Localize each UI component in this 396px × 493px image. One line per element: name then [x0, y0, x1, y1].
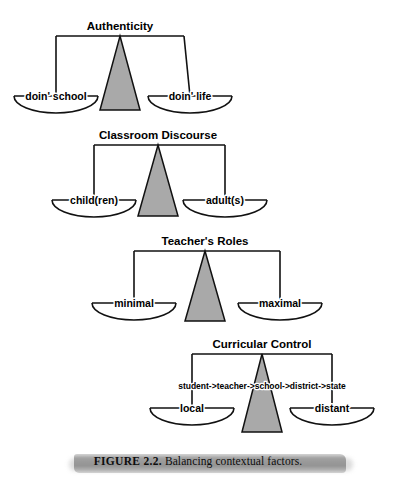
scale-title: Teacher's Roles [162, 235, 249, 247]
figure-description: Balancing contextual factors. [165, 455, 302, 467]
figure-balancing-contextual-factors: doin' schooldoin' lifeAuthenticitychild(… [0, 0, 396, 493]
scale-title: Classroom Discourse [99, 129, 217, 141]
caption-text-line: FIGURE 2.2. Balancing contextual factors… [0, 455, 396, 467]
fulcrum-triangle [138, 145, 178, 216]
pan-label-right: doin' life [169, 90, 212, 102]
fulcrum-triangle [185, 251, 225, 321]
scale-title: Curricular Control [212, 338, 311, 350]
suspension-post-right [184, 36, 190, 96]
pan-label-left: minimal [114, 297, 154, 309]
balance-scales-diagram: doin' schooldoin' lifeAuthenticitychild(… [0, 0, 396, 493]
continuum-label: student->teacher->school->district->stat… [178, 381, 346, 391]
figure-number: FIGURE 2.2. [94, 455, 162, 467]
pan-label-left: doin' school [25, 90, 86, 102]
pan-label-left: local [180, 402, 204, 414]
pan-label-left: child(ren) [70, 194, 118, 206]
pan-label-right: adult(s) [206, 194, 244, 206]
fulcrum-triangle [242, 354, 282, 432]
balance-scale-4: localdistantstudent->teacher->school->di… [150, 338, 374, 432]
pan-label-right: distant [315, 402, 350, 414]
figure-caption: FIGURE 2.2. Balancing contextual factors… [0, 452, 396, 482]
balance-scale-2: child(ren)adult(s)Classroom Discourse [52, 129, 267, 217]
scale-title: Authenticity [87, 20, 154, 32]
balance-scale-3: minimalmaximalTeacher's Roles [92, 235, 322, 321]
pan-label-right: maximal [259, 297, 301, 309]
fulcrum-triangle [100, 36, 140, 110]
balance-scale-1: doin' schooldoin' lifeAuthenticity [14, 20, 232, 113]
